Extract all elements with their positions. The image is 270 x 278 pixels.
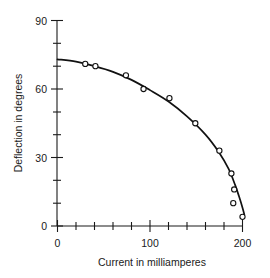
data-point-marker [93,64,98,69]
data-point-marker [232,187,237,192]
y-tick-label-0: 0 [41,220,47,232]
chart-figure: 90 60 30 0 Deflection in degrees 0 [0,0,270,278]
x-axis-group: 0 100 200 Current in milliamperes [55,220,252,268]
data-point-marker [231,201,236,206]
y-tick-label-60: 60 [35,83,47,95]
y-tick-label-90: 90 [35,15,47,27]
fitted-curve-group [58,59,245,214]
data-point-marker [193,121,198,126]
data-point-marker [167,96,172,101]
x-tick-label-100: 100 [141,237,159,249]
y-axis-group: 90 60 30 0 Deflection in degrees [12,15,63,233]
x-tick-label-200: 200 [234,237,252,249]
data-point-marker [217,148,222,153]
y-axis-title: Deflection in degrees [12,74,24,173]
data-point-marker [83,61,88,66]
data-point-marker [240,214,245,219]
x-axis-title: Current in milliamperes [98,256,206,268]
fitted-curve [58,59,245,214]
x-tick-label-0: 0 [55,237,61,249]
data-points-group [83,61,245,219]
data-point-marker [229,171,234,176]
deflection-vs-current-chart: 90 60 30 0 Deflection in degrees 0 [0,0,270,278]
y-tick-label-30: 30 [35,152,47,164]
data-point-marker [123,73,128,78]
data-point-marker [141,86,146,91]
